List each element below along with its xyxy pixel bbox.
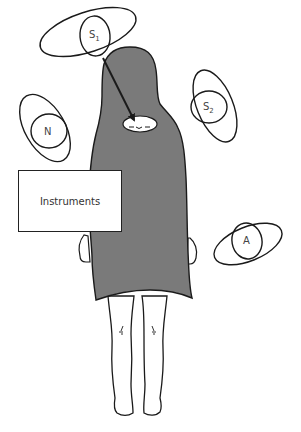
position-n: N [9, 86, 81, 170]
right-leg [142, 296, 167, 415]
face-opening [123, 116, 157, 132]
diagram-canvas: S1 S2 N A Instruments [0, 0, 301, 432]
position-s2-label: S2 [203, 101, 214, 115]
position-s1-label: S1 [89, 29, 100, 43]
position-a-label: A [243, 235, 250, 246]
left-hand [79, 235, 90, 262]
position-a: A [208, 215, 287, 273]
instruments-table: Instruments [18, 170, 122, 232]
left-leg [108, 296, 134, 415]
patient-legs [108, 296, 167, 415]
position-n-label: N [44, 126, 51, 137]
instruments-label: Instruments [40, 196, 100, 207]
position-s2: S2 [184, 64, 246, 148]
